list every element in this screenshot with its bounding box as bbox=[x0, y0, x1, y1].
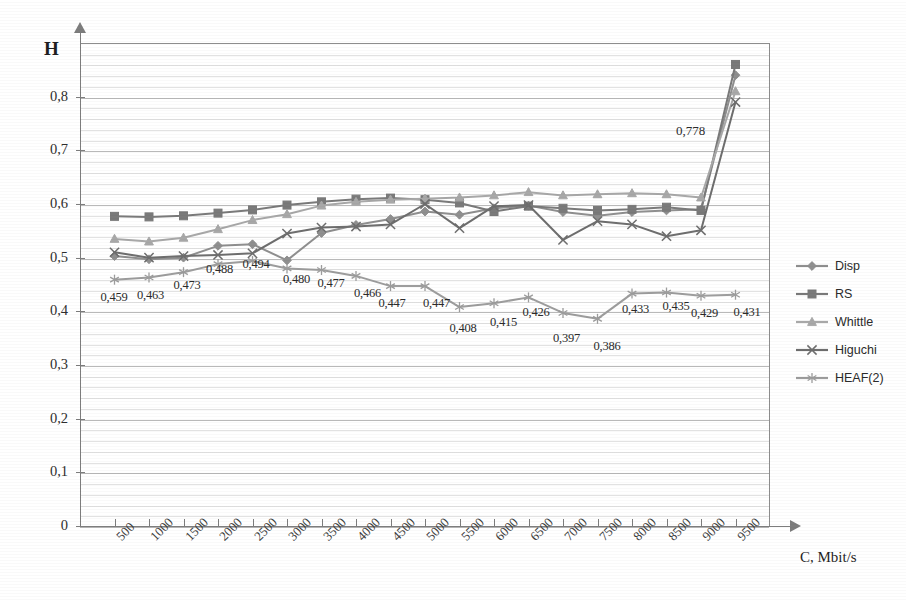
gridline-minor bbox=[80, 237, 769, 238]
x-tick bbox=[115, 519, 116, 527]
gridline-major bbox=[80, 473, 769, 474]
y-tick bbox=[76, 97, 85, 98]
data-label: 0,477 bbox=[318, 276, 345, 291]
y-tick-label: 0 bbox=[0, 518, 68, 533]
data-label: 0,429 bbox=[691, 306, 718, 321]
y-axis-title: H bbox=[44, 38, 59, 60]
legend-label: RS bbox=[835, 287, 852, 301]
chart-legend: DispRSWhittleHiguchiHEAF(2) bbox=[795, 252, 900, 392]
legend-item-disp[interactable]: Disp bbox=[795, 252, 900, 280]
y-axis-arrow-icon bbox=[74, 22, 86, 33]
gridline-major bbox=[80, 420, 769, 421]
legend-item-rs[interactable]: RS bbox=[795, 280, 900, 308]
legend-marker-triangle-icon bbox=[795, 315, 829, 329]
x-tick bbox=[736, 519, 737, 527]
data-label: 0,426 bbox=[523, 305, 550, 320]
data-label: 0,447 bbox=[423, 296, 450, 311]
gridline-minor bbox=[80, 173, 769, 174]
gridline-minor bbox=[80, 334, 769, 335]
gridline-minor bbox=[80, 377, 769, 378]
x-tick bbox=[184, 519, 185, 527]
legend-marker-diamond-icon bbox=[795, 259, 829, 273]
y-tick-label: 0,7 bbox=[0, 142, 68, 157]
x-tick bbox=[667, 519, 668, 527]
y-tick bbox=[76, 150, 85, 151]
gridline-major bbox=[80, 151, 769, 152]
gridline-minor bbox=[80, 355, 769, 356]
y-tick bbox=[76, 258, 85, 259]
gridline-minor bbox=[80, 269, 769, 270]
y-tick bbox=[76, 472, 85, 473]
gridline-minor bbox=[80, 184, 769, 185]
x-tick bbox=[287, 519, 288, 527]
y-axis-line bbox=[80, 25, 81, 526]
x-tick bbox=[494, 519, 495, 527]
gridline-major bbox=[80, 366, 769, 367]
data-label: 0,431 bbox=[734, 305, 761, 320]
gridline-minor bbox=[80, 484, 769, 485]
gridline-minor bbox=[80, 345, 769, 346]
data-label: 0,415 bbox=[490, 315, 517, 330]
x-axis-arrow-icon bbox=[790, 520, 801, 532]
data-label: 0,447 bbox=[379, 296, 406, 311]
data-label: 0,408 bbox=[450, 321, 477, 336]
y-tick-label: 0,2 bbox=[0, 411, 68, 426]
data-label: 0,459 bbox=[101, 290, 128, 305]
legend-item-whittle[interactable]: Whittle bbox=[795, 308, 900, 336]
chart-canvas: H 00,10,20,30,40,50,60,70,8 500100015002… bbox=[0, 0, 906, 600]
x-tick bbox=[460, 519, 461, 527]
legend-label: HEAF(2) bbox=[835, 371, 884, 385]
gridline-minor bbox=[80, 452, 769, 453]
data-label: 0,480 bbox=[283, 272, 310, 287]
legend-item-heaf-2[interactable]: HEAF(2) bbox=[795, 364, 900, 392]
x-tick bbox=[149, 519, 150, 527]
x-tick bbox=[356, 519, 357, 527]
x-tick bbox=[529, 519, 530, 527]
data-label: 0,494 bbox=[243, 257, 270, 272]
data-label: 0,778 bbox=[676, 123, 705, 139]
gridline-minor bbox=[80, 409, 769, 410]
y-tick bbox=[76, 311, 85, 312]
gridline-minor bbox=[80, 430, 769, 431]
data-label: 0,488 bbox=[206, 262, 233, 277]
y-tick bbox=[76, 526, 85, 527]
gridline-minor bbox=[80, 76, 769, 77]
x-tick bbox=[425, 519, 426, 527]
gridline-minor bbox=[80, 119, 769, 120]
x-tick bbox=[563, 519, 564, 527]
gridline-minor bbox=[80, 387, 769, 388]
data-label: 0,435 bbox=[663, 299, 690, 314]
gridline-minor bbox=[80, 516, 769, 517]
gridline-minor bbox=[80, 130, 769, 131]
gridline-minor bbox=[80, 463, 769, 464]
y-tick-label: 0,4 bbox=[0, 303, 68, 318]
gridline-major bbox=[80, 98, 769, 99]
x-tick bbox=[322, 519, 323, 527]
x-tick bbox=[391, 519, 392, 527]
y-tick bbox=[76, 419, 85, 420]
gridline-minor bbox=[80, 65, 769, 66]
gridline-minor bbox=[80, 323, 769, 324]
gridline-major bbox=[80, 205, 769, 206]
x-tick bbox=[218, 519, 219, 527]
gridline-major bbox=[80, 527, 769, 528]
gridline-minor bbox=[80, 108, 769, 109]
legend-label: Disp bbox=[835, 259, 860, 273]
legend-label: Whittle bbox=[835, 315, 873, 329]
y-tick bbox=[76, 204, 85, 205]
y-tick-label: 0,1 bbox=[0, 464, 68, 479]
x-tick bbox=[253, 519, 254, 527]
gridline-minor bbox=[80, 398, 769, 399]
gridline-minor bbox=[80, 194, 769, 195]
x-tick bbox=[701, 519, 702, 527]
x-axis-title: C, Mbit/s bbox=[800, 549, 857, 566]
gridline-minor bbox=[80, 506, 769, 507]
data-label: 0,466 bbox=[354, 286, 381, 301]
legend-item-higuchi[interactable]: Higuchi bbox=[795, 336, 900, 364]
data-label: 0,473 bbox=[174, 278, 201, 293]
gridline-minor bbox=[80, 141, 769, 142]
legend-marker-x-icon bbox=[795, 343, 829, 357]
y-tick-label: 0,5 bbox=[0, 250, 68, 265]
gridline-minor bbox=[80, 441, 769, 442]
legend-marker-square-icon bbox=[795, 287, 829, 301]
